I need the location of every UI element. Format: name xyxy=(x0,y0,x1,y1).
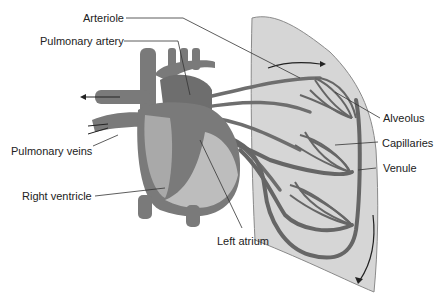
label-venule: Venule xyxy=(383,162,417,174)
label-right-ventricle: Right ventricle xyxy=(22,190,92,202)
label-left-atrium: Left atrium xyxy=(217,235,269,247)
label-alveolus: Alveolus xyxy=(383,112,425,124)
heart xyxy=(80,48,240,227)
label-capillaries: Capillaries xyxy=(382,137,434,149)
label-arteriole: Arteriole xyxy=(83,12,124,24)
label-pulmonary-artery: Pulmonary artery xyxy=(40,35,124,47)
label-pulmonary-veins: Pulmonary veins xyxy=(11,145,93,157)
arrow-left-icon xyxy=(80,94,86,100)
pulmonary-circulation-diagram: Arteriole Pulmonary artery Pulmonary vei… xyxy=(0,0,440,299)
